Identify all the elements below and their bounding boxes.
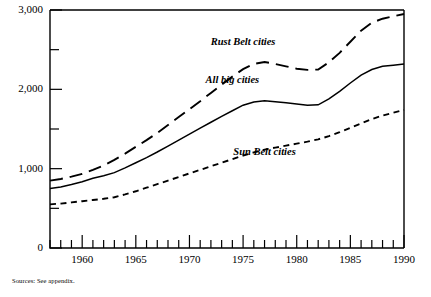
x-tick-label: 1990 <box>393 253 416 265</box>
y-tick-label: 3,000 <box>18 3 43 15</box>
x-tick-label: 1975 <box>232 253 255 265</box>
series-line-sun-belt-cities <box>50 110 404 204</box>
x-tick-label: 1970 <box>178 253 201 265</box>
series-label-sun-belt-cities: Sun Belt cities <box>233 146 295 157</box>
series-label-all-big-cities: All big cities <box>205 74 260 85</box>
y-tick-label: 0 <box>38 241 44 253</box>
chart-svg: 01,0002,0003,000196019651970197519801985… <box>0 0 431 297</box>
y-tick-label: 2,000 <box>18 82 43 94</box>
y-tick-label: 1,000 <box>18 162 43 174</box>
source-note: Sources: See appendix. <box>12 277 75 284</box>
figure-chart-big-cities: 01,0002,0003,000196019651970197519801985… <box>0 0 431 297</box>
x-tick-label: 1965 <box>125 253 148 265</box>
x-tick-label: 1985 <box>339 253 362 265</box>
x-tick-label: 1960 <box>71 253 94 265</box>
series-label-rust-belt-cities: Rust Belt cities <box>210 36 276 47</box>
x-tick-label: 1980 <box>286 253 309 265</box>
